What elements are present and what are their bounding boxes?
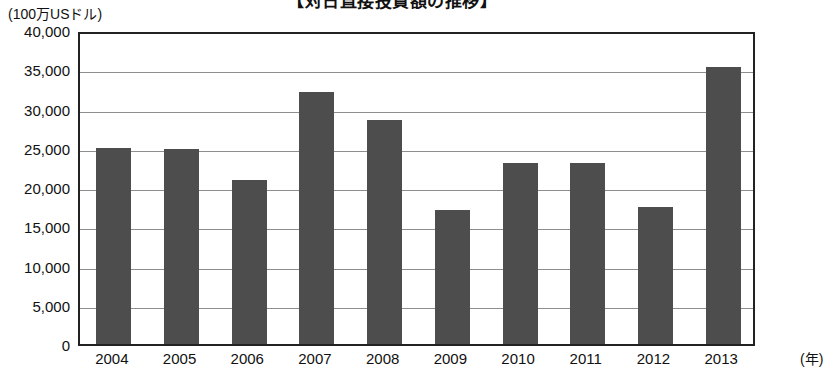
plot-area — [78, 32, 755, 346]
x-axis-tick-label: 2006 — [212, 350, 282, 368]
bar — [299, 92, 334, 344]
y-axis-tick-label: 30,000 — [4, 103, 70, 118]
y-axis-tick-label: 0 — [4, 338, 70, 353]
x-axis-unit-label: (年) — [800, 350, 823, 368]
y-axis-tick-label: 5,000 — [4, 299, 70, 314]
y-axis-tick-label: 40,000 — [4, 24, 70, 39]
x-axis: (年) 200420052006200720082009201020112012… — [78, 350, 755, 376]
x-axis-tick-label: 2005 — [145, 350, 215, 368]
bar-series — [80, 34, 753, 344]
bar — [638, 207, 673, 344]
bar — [164, 149, 199, 344]
y-axis-tick-label: 35,000 — [4, 63, 70, 78]
x-axis-tick-label: 2009 — [415, 350, 485, 368]
x-axis-tick-label: 2011 — [551, 350, 621, 368]
y-axis-tick-label: 10,000 — [4, 260, 70, 275]
bar — [706, 67, 741, 344]
y-axis-tick-label: 15,000 — [4, 220, 70, 235]
y-axis-tick-label: 25,000 — [4, 142, 70, 157]
x-axis-tick-label: 2008 — [348, 350, 418, 368]
y-axis: 05,00010,00015,00020,00025,00030,00035,0… — [0, 0, 72, 381]
x-axis-tick-label: 2007 — [280, 350, 350, 368]
x-axis-tick-label: 2013 — [686, 350, 756, 368]
x-axis-tick-label: 2004 — [77, 350, 147, 368]
bar — [232, 180, 267, 344]
bar — [570, 163, 605, 344]
bar — [435, 210, 470, 344]
y-axis-tick-label: 20,000 — [4, 181, 70, 196]
bar — [503, 163, 538, 344]
chart-title: 【対日直接投資額の推移】 — [0, 0, 784, 12]
bar — [367, 120, 402, 344]
x-axis-tick-label: 2010 — [483, 350, 553, 368]
x-axis-tick-label: 2012 — [618, 350, 688, 368]
bar — [96, 148, 131, 344]
